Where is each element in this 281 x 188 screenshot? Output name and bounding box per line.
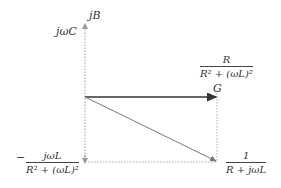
fraction-numerator: R bbox=[221, 54, 233, 66]
admittance-phasor-diagram: jB jωC G R R² + (ωL)² − jωL R² + (ωL)² 1… bbox=[0, 0, 281, 188]
imag-axis-label: jB bbox=[89, 10, 101, 21]
admittance-vector bbox=[85, 97, 216, 161]
conductance-label: G bbox=[213, 83, 222, 94]
susceptance-fraction: jωL R² + (ωL)² bbox=[26, 150, 79, 175]
minus-sign: − bbox=[16, 151, 25, 164]
conductance-fraction: R R² + (ωL)² bbox=[200, 54, 253, 79]
admittance-fraction: 1 R + jωL bbox=[226, 150, 266, 175]
fraction-denominator: R² + (ωL)² bbox=[200, 67, 253, 79]
fraction-numerator: jωL bbox=[41, 150, 63, 162]
fraction-numerator: 1 bbox=[241, 150, 251, 162]
imag-axis-value-label: jωC bbox=[56, 26, 77, 37]
fraction-denominator: R² + (ωL)² bbox=[26, 163, 79, 175]
fraction-denominator: R + jωL bbox=[226, 163, 266, 175]
